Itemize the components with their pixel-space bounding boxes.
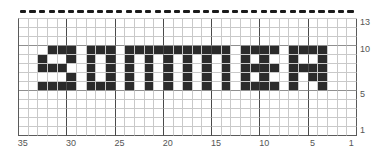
grid-cell[interactable] (174, 55, 184, 64)
grid-cell[interactable] (347, 82, 357, 91)
grid-cell[interactable] (251, 46, 261, 55)
grid-cell[interactable] (231, 37, 241, 46)
grid-cell[interactable] (193, 100, 203, 109)
grid-cell[interactable] (270, 28, 280, 37)
grid-cell[interactable] (183, 82, 193, 91)
grid-cell[interactable] (29, 19, 39, 28)
grid-cell[interactable] (328, 127, 338, 136)
grid-cell[interactable] (338, 37, 348, 46)
grid-cell[interactable] (193, 73, 203, 82)
grid-cell[interactable] (106, 73, 116, 82)
grid-cell[interactable] (347, 109, 357, 118)
grid-cell[interactable] (87, 55, 97, 64)
grid-cell[interactable] (116, 73, 126, 82)
grid-cell[interactable] (106, 55, 116, 64)
grid-cell[interactable] (202, 82, 212, 91)
grid-cell[interactable] (231, 91, 241, 100)
grid-cell[interactable] (145, 64, 155, 73)
grid-cell[interactable] (328, 55, 338, 64)
grid-cell[interactable] (77, 100, 87, 109)
grid-cell[interactable] (280, 19, 290, 28)
grid-cell[interactable] (251, 127, 261, 136)
grid-cell[interactable] (116, 100, 126, 109)
grid-cell[interactable] (38, 37, 48, 46)
grid-cell[interactable] (58, 19, 68, 28)
grid-cell[interactable] (289, 46, 299, 55)
grid-cell[interactable] (222, 73, 232, 82)
grid-cell[interactable] (318, 46, 328, 55)
grid-cell[interactable] (193, 118, 203, 127)
grid-cell[interactable] (67, 127, 77, 136)
grid-cell[interactable] (251, 118, 261, 127)
grid-cell[interactable] (202, 37, 212, 46)
grid-cell[interactable] (231, 100, 241, 109)
grid-cell[interactable] (154, 100, 164, 109)
grid-cell[interactable] (174, 118, 184, 127)
grid-cell[interactable] (116, 28, 126, 37)
grid-cell[interactable] (299, 91, 309, 100)
grid-cell[interactable] (260, 73, 270, 82)
grid-cell[interactable] (251, 100, 261, 109)
grid-cell[interactable] (145, 100, 155, 109)
grid-cell[interactable] (96, 73, 106, 82)
grid-cell[interactable] (318, 55, 328, 64)
grid-cell[interactable] (183, 118, 193, 127)
grid-cell[interactable] (96, 55, 106, 64)
grid-cell[interactable] (328, 100, 338, 109)
grid-cell[interactable] (77, 109, 87, 118)
grid-cell[interactable] (241, 28, 251, 37)
grid-cell[interactable] (87, 73, 97, 82)
grid-cell[interactable] (164, 91, 174, 100)
grid-cell[interactable] (125, 28, 135, 37)
grid-cell[interactable] (270, 19, 280, 28)
grid-cell[interactable] (328, 118, 338, 127)
grid-cell[interactable] (212, 100, 222, 109)
grid-cell[interactable] (154, 73, 164, 82)
grid-cell[interactable] (241, 82, 251, 91)
grid-cell[interactable] (260, 91, 270, 100)
grid-cell[interactable] (280, 64, 290, 73)
grid-cell[interactable] (135, 82, 145, 91)
grid-cell[interactable] (299, 37, 309, 46)
grid-cell[interactable] (48, 100, 58, 109)
grid-cell[interactable] (48, 82, 58, 91)
grid-cell[interactable] (77, 55, 87, 64)
grid-cell[interactable] (77, 64, 87, 73)
grid-cell[interactable] (289, 82, 299, 91)
grid-cell[interactable] (87, 100, 97, 109)
grid-cell[interactable] (222, 109, 232, 118)
grid-cell[interactable] (347, 28, 357, 37)
grid-cell[interactable] (48, 127, 58, 136)
grid-cell[interactable] (222, 82, 232, 91)
grid-cell[interactable] (289, 19, 299, 28)
grid-cell[interactable] (164, 118, 174, 127)
grid-cell[interactable] (309, 82, 319, 91)
grid-cell[interactable] (164, 73, 174, 82)
grid-cell[interactable] (309, 109, 319, 118)
stitch-grid[interactable] (18, 18, 357, 136)
grid-cell[interactable] (309, 64, 319, 73)
grid-cell[interactable] (222, 28, 232, 37)
grid-cell[interactable] (212, 109, 222, 118)
grid-cell[interactable] (328, 64, 338, 73)
grid-cell[interactable] (231, 64, 241, 73)
grid-cell[interactable] (48, 37, 58, 46)
grid-cell[interactable] (116, 82, 126, 91)
grid-cell[interactable] (29, 100, 39, 109)
grid-cell[interactable] (154, 46, 164, 55)
grid-cell[interactable] (318, 73, 328, 82)
grid-cell[interactable] (299, 127, 309, 136)
grid-cell[interactable] (48, 19, 58, 28)
grid-cell[interactable] (251, 73, 261, 82)
grid-cell[interactable] (145, 19, 155, 28)
grid-cell[interactable] (58, 100, 68, 109)
grid-cell[interactable] (260, 55, 270, 64)
grid-cell[interactable] (260, 46, 270, 55)
grid-cell[interactable] (328, 91, 338, 100)
grid-cell[interactable] (270, 37, 280, 46)
grid-cell[interactable] (280, 73, 290, 82)
grid-cell[interactable] (289, 73, 299, 82)
grid-cell[interactable] (106, 109, 116, 118)
grid-cell[interactable] (174, 28, 184, 37)
grid-cell[interactable] (328, 37, 338, 46)
